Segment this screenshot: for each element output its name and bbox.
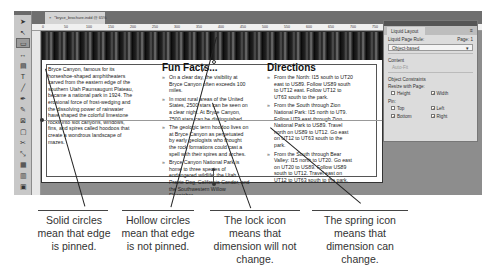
page-icon: ▭	[20, 40, 27, 47]
checkbox-icon	[391, 106, 395, 110]
free-transform-icon: ⤡	[20, 150, 26, 157]
note-icon: ▣	[20, 183, 27, 190]
height-lock-icon[interactable]	[213, 170, 214, 182]
direction-item: From the South through Bear Valley: I15 …	[267, 151, 355, 184]
ruler-tick-label: 700	[350, 25, 356, 29]
fun-fact-item: The geologic term hoodoo lives on at Bry…	[162, 124, 250, 157]
left-label: Left	[437, 106, 445, 111]
page-number-label: Page: 1	[457, 37, 473, 43]
ruler-tick-label: 600	[306, 25, 312, 29]
directions-frame[interactable]: Directions From the North: I15 south to …	[267, 62, 355, 186]
type-icon: T	[21, 73, 25, 80]
checkbox-icon	[391, 91, 395, 95]
top-label: Top	[397, 106, 404, 111]
height-label: Height	[397, 91, 410, 96]
rectangle-icon: ▢	[20, 128, 27, 135]
scissors-tool[interactable]: ✂	[16, 137, 30, 147]
content-collector-tool[interactable]: ▤	[16, 60, 30, 70]
caption-hollow-circles: Hollow circles mean that edge is not pin…	[119, 214, 197, 253]
auto-fit-checkbox[interactable]: Auto-Fit	[384, 63, 477, 70]
ruler-tick-label: 0	[42, 25, 44, 29]
free-transform-tool[interactable]: ⤡	[16, 148, 30, 158]
gradient-feather-icon: ▥	[20, 172, 27, 179]
intro-text-frame[interactable]: Bryce Canyon, famous for its horseshoe-s…	[48, 66, 134, 145]
page-rule-label: Liquid Page Rule:	[388, 37, 424, 43]
ruler-tick-label: 50	[64, 25, 68, 29]
gradient-swatch-icon: ▦	[20, 161, 27, 168]
liquid-layout-tab[interactable]: Liquid Layout	[387, 27, 425, 35]
intro-paragraph: Bryce Canyon, famous for its horseshoe-s…	[48, 66, 134, 145]
pencil-tool[interactable]: ✎	[16, 104, 30, 114]
tools-panel-grip[interactable]	[14, 11, 31, 15]
note-tool[interactable]: ▣	[16, 181, 30, 191]
ruler-tick-label: 250	[152, 25, 158, 29]
gradient-feather-tool[interactable]: ▥	[16, 170, 30, 180]
page-tool[interactable]: ▭	[16, 38, 30, 48]
fun-facts-frame[interactable]: Fun Facts... On a clear day, the visibil…	[162, 62, 250, 195]
ruler-tick-label: 650	[328, 25, 334, 29]
ruler-tick-label: 300	[174, 25, 180, 29]
liquid-page-rule-dropdown[interactable]: Object-based ▾	[388, 44, 473, 51]
pin-label: Pin:	[384, 97, 477, 104]
panel-menu-icon[interactable]: ≡	[470, 27, 473, 33]
chevron-down-icon: ▾	[466, 46, 469, 49]
liquid-page-rule-value: Object-based	[392, 46, 419, 49]
direct-selection-icon: ↖	[20, 29, 26, 36]
line-tool[interactable]: ╱	[16, 82, 30, 92]
document-tab[interactable]: × *bryce_brochure.indd @ 65%	[45, 12, 105, 24]
checkmark-icon: ✓	[431, 106, 435, 110]
selection-tool[interactable]: ➤	[16, 16, 30, 26]
divider	[388, 53, 473, 54]
ruler-tick-label: 150	[108, 25, 114, 29]
right-label: Right	[437, 114, 448, 119]
close-tab-icon[interactable]: ×	[49, 15, 51, 24]
ruler-tick-label: 500	[262, 25, 268, 29]
height-lock-end-icon	[212, 168, 215, 171]
content-label: Content	[384, 56, 477, 63]
liquid-layout-panel: Liquid Layout ≡ Liquid Page Rule: Page: …	[383, 20, 478, 142]
pen-tool[interactable]: ✒	[16, 93, 30, 103]
scissors-icon: ✂	[20, 139, 26, 146]
caption-rule	[210, 210, 300, 211]
caption-spring-icon: The spring icon means that dimension can…	[311, 214, 409, 266]
type-tool[interactable]: T	[16, 71, 30, 81]
gradient-swatch-tool[interactable]: ▦	[16, 159, 30, 169]
right-checkbox[interactable]: ✓ Right	[431, 113, 471, 119]
pencil-icon: ✎	[20, 106, 26, 113]
rectangle-tool[interactable]: ▢	[16, 126, 30, 136]
width-label: Width	[437, 91, 449, 96]
checkmark-icon: ✓	[431, 91, 435, 95]
height-checkbox[interactable]: Height	[391, 90, 431, 96]
caption-solid-circles: Solid circles mean that edge is pinned.	[36, 214, 112, 253]
checkmark-icon: ✓	[391, 114, 395, 118]
ruler-tick-label: 450	[240, 25, 246, 29]
ruler-tick-label: 400	[218, 25, 224, 29]
top-checkbox[interactable]: Top	[391, 105, 431, 111]
caption-rule	[38, 210, 108, 211]
left-checkbox[interactable]: ✓ Left	[431, 105, 471, 111]
bottom-checkbox[interactable]: ✓ Bottom	[391, 113, 431, 119]
checkmark-icon: ✓	[431, 114, 435, 118]
object-constraints-label: Object Constraints	[384, 75, 477, 82]
rectangle-frame-tool[interactable]: ⊠	[16, 115, 30, 125]
direction-item: From the North: I15 south to UT20 east t…	[267, 74, 355, 100]
pin-left-solid-circle-icon[interactable]	[40, 118, 44, 122]
direct-selection-tool[interactable]: ↖	[16, 27, 30, 37]
gap-tool[interactable]: ↔	[16, 49, 30, 59]
width-checkbox[interactable]: ✓ Width	[431, 90, 471, 96]
selection-icon: ➤	[20, 18, 26, 25]
ruler-tick-label: 200	[130, 25, 136, 29]
bottom-label: Bottom	[397, 114, 412, 119]
ruler-tick-label: 350	[196, 25, 202, 29]
document-tab-label: *bryce_brochure.indd @ 65%	[54, 15, 106, 24]
direction-item: From the South through Zion National Par…	[267, 102, 355, 148]
resize-with-page-label: Resize with Page:	[384, 82, 477, 89]
eyedropper-icon: ⁄	[22, 194, 23, 196]
vertical-ruler[interactable]	[32, 31, 41, 195]
fun-fact-item: In most rural areas of the United States…	[162, 96, 250, 122]
caption-lock-icon: The lock icon means that dimension will …	[208, 214, 302, 266]
divider	[388, 72, 473, 73]
pin-top-hollow-circle-icon[interactable]	[212, 60, 216, 64]
pin-bottom-solid-circle-icon[interactable]	[212, 182, 216, 186]
eyedropper-tool[interactable]: ⁄	[16, 192, 30, 195]
